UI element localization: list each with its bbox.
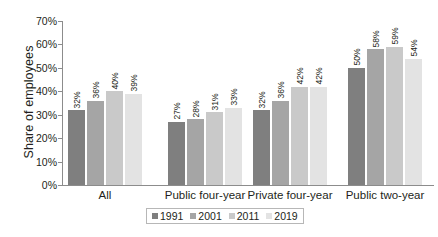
legend-swatch-icon bbox=[152, 213, 158, 219]
x-axis-line bbox=[62, 185, 434, 186]
bar[interactable] bbox=[405, 59, 422, 186]
bar[interactable] bbox=[106, 91, 123, 185]
bar-value-label: 31% bbox=[210, 93, 219, 110]
bar-value-label: 39% bbox=[129, 75, 138, 92]
bar[interactable] bbox=[125, 94, 142, 185]
legend-swatch-icon bbox=[229, 213, 235, 219]
bar-value-label: 58% bbox=[371, 30, 380, 47]
bar[interactable] bbox=[187, 119, 204, 185]
legend-item[interactable]: 2001 bbox=[190, 211, 221, 222]
bar-value-label: 42% bbox=[314, 68, 323, 85]
legend-item[interactable]: 2019 bbox=[266, 211, 297, 222]
bar[interactable] bbox=[168, 122, 185, 185]
bar-value-label: 59% bbox=[390, 28, 399, 45]
bar[interactable] bbox=[386, 47, 403, 185]
y-tick-mark bbox=[58, 44, 62, 45]
legend-label: 2011 bbox=[237, 211, 260, 222]
y-tick-mark bbox=[58, 91, 62, 92]
y-tick-label: 30% bbox=[21, 110, 57, 121]
bar[interactable] bbox=[310, 87, 327, 185]
legend-label: 2001 bbox=[198, 211, 221, 222]
bar[interactable] bbox=[253, 110, 270, 185]
bar-chart: Share of employees 70%60%50%40%30%20%10%… bbox=[0, 0, 438, 237]
bar-value-label: 40% bbox=[110, 72, 119, 89]
y-tick-label: 60% bbox=[21, 39, 57, 50]
y-axis-tick-labels: 70%60%50%40%30%20%10%0% bbox=[20, 0, 57, 237]
y-tick-label: 20% bbox=[21, 133, 57, 144]
bar[interactable] bbox=[206, 112, 223, 185]
y-tick-mark bbox=[58, 138, 62, 139]
y-tick-mark bbox=[58, 162, 62, 163]
y-tick-mark bbox=[58, 185, 62, 186]
y-tick-label: 10% bbox=[21, 157, 57, 168]
chart-legend[interactable]: 1991200120112019 bbox=[146, 208, 304, 224]
bar[interactable] bbox=[348, 68, 365, 185]
bar[interactable] bbox=[272, 101, 289, 185]
bar-value-label: 42% bbox=[295, 68, 304, 85]
legend-item[interactable]: 1991 bbox=[152, 211, 183, 222]
bar-value-label: 32% bbox=[257, 91, 266, 108]
bar-value-label: 32% bbox=[72, 91, 81, 108]
bar-value-label: 28% bbox=[191, 100, 200, 117]
bar-value-label: 36% bbox=[276, 82, 285, 99]
legend-item[interactable]: 2011 bbox=[229, 211, 260, 222]
legend-swatch-icon bbox=[266, 213, 272, 219]
bar-value-label: 54% bbox=[409, 39, 418, 56]
legend-label: 2019 bbox=[274, 211, 297, 222]
bar-value-label: 36% bbox=[91, 82, 100, 99]
bar[interactable] bbox=[291, 87, 308, 185]
plot-area: 32%36%40%39%27%28%31%33%32%36%42%42%50%5… bbox=[63, 21, 434, 185]
bar-value-label: 33% bbox=[229, 89, 238, 106]
x-category-label: Public two-year bbox=[325, 189, 438, 201]
legend-swatch-icon bbox=[190, 213, 196, 219]
bar-value-label: 50% bbox=[352, 49, 361, 66]
bar[interactable] bbox=[225, 108, 242, 185]
y-tick-label: 50% bbox=[21, 63, 57, 74]
legend-label: 1991 bbox=[160, 211, 183, 222]
bar-value-label: 27% bbox=[172, 103, 181, 120]
y-tick-mark bbox=[58, 115, 62, 116]
bar[interactable] bbox=[87, 101, 104, 185]
bar[interactable] bbox=[68, 110, 85, 185]
bar[interactable] bbox=[367, 49, 384, 185]
y-tick-label: 40% bbox=[21, 86, 57, 97]
y-tick-mark bbox=[58, 21, 62, 22]
y-tick-mark bbox=[58, 68, 62, 69]
y-tick-label: 70% bbox=[21, 16, 57, 27]
